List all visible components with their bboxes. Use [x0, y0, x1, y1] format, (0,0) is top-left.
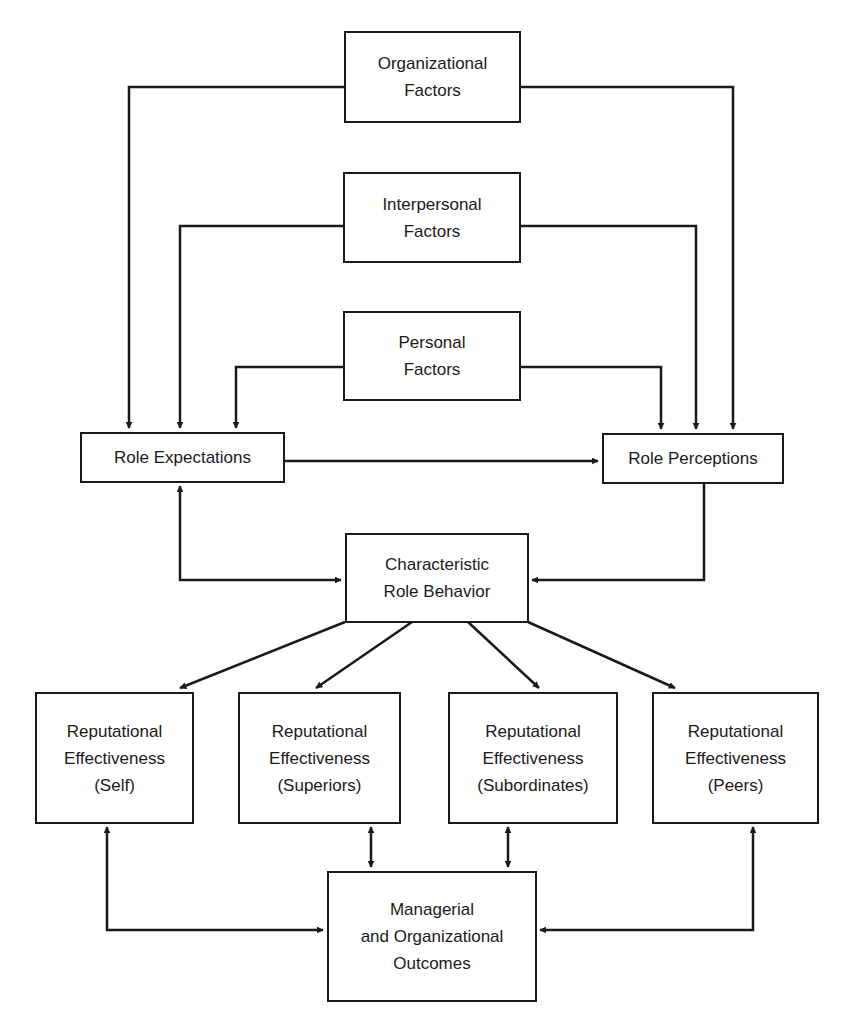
node-label-line: (Subordinates) [477, 772, 589, 799]
node-label-line: Role Behavior [384, 578, 491, 605]
edge-behavior-to-rep-subordinates [468, 622, 539, 688]
edge-personal-to-role-perceptions [520, 367, 661, 429]
node-label-line: (Self) [64, 772, 165, 799]
node-label-line: Organizational [378, 50, 488, 77]
edge-behavior-to-rep-self [180, 622, 345, 688]
edge-interpersonal-to-role-expectations [180, 226, 343, 428]
node-label-line: and Organizational [361, 923, 504, 950]
node-label-line: Effectiveness [477, 745, 589, 772]
edge-interpersonal-to-role-perceptions [520, 226, 696, 429]
edge-behavior-to-rep-superiors [316, 622, 412, 688]
node-label-line: Reputational [685, 718, 786, 745]
edge-role-perceptions-to-behavior [532, 483, 704, 580]
node-role-expectations: Role Expectations [80, 432, 285, 483]
node-label-line: Factors [378, 77, 488, 104]
node-rep-effectiveness-peers: Reputational Effectiveness (Peers) [652, 692, 819, 824]
edge-rep-self-to-outcomes [107, 827, 323, 930]
node-rep-effectiveness-superiors: Reputational Effectiveness (Superiors) [238, 692, 401, 824]
node-label-line: (Peers) [685, 772, 786, 799]
node-label-line: Factors [382, 218, 481, 245]
node-label-line: Outcomes [361, 950, 504, 977]
edge-rep-peers-to-outcomes [540, 827, 753, 930]
node-interpersonal-factors: Interpersonal Factors [343, 172, 521, 263]
node-label-line: Interpersonal [382, 191, 481, 218]
node-role-perceptions: Role Perceptions [602, 433, 784, 484]
node-label-line: Role Perceptions [628, 445, 757, 472]
node-rep-effectiveness-subordinates: Reputational Effectiveness (Subordinates… [448, 692, 618, 824]
edge-behavior-to-rep-peers [528, 622, 675, 688]
node-characteristic-role-behavior: Characteristic Role Behavior [345, 533, 529, 623]
node-label-line: Characteristic [384, 551, 491, 578]
edge-personal-to-role-expectations [236, 367, 343, 428]
node-label-line: Personal [398, 329, 465, 356]
node-label-line: Effectiveness [685, 745, 786, 772]
node-label-line: Effectiveness [269, 745, 370, 772]
node-label-line: Reputational [269, 718, 370, 745]
edge-org-to-role-perceptions [520, 87, 733, 429]
node-label-line: Reputational [64, 718, 165, 745]
node-label-line: (Superiors) [269, 772, 370, 799]
node-organizational-factors: Organizational Factors [344, 31, 521, 123]
node-label-line: Managerial [361, 896, 504, 923]
node-label-line: Effectiveness [64, 745, 165, 772]
node-managerial-organizational-outcomes: Managerial and Organizational Outcomes [327, 871, 537, 1002]
node-personal-factors: Personal Factors [343, 311, 521, 401]
edge-role-expectations-to-behavior [180, 486, 341, 580]
node-rep-effectiveness-self: Reputational Effectiveness (Self) [35, 692, 194, 824]
node-label-line: Factors [398, 356, 465, 383]
node-label-line: Reputational [477, 718, 589, 745]
node-label-line: Role Expectations [114, 444, 251, 471]
